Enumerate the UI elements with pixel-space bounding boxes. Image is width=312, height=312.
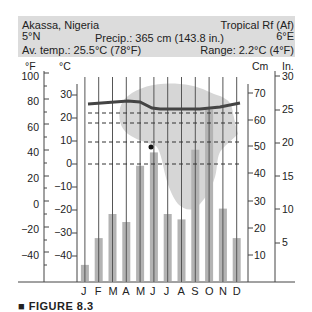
month-label: D: [233, 286, 241, 297]
figure-caption: ■ FIGURE 8.3: [18, 300, 94, 312]
month-label: O: [205, 286, 214, 297]
month-label: N: [219, 286, 227, 297]
month-label: J: [81, 286, 87, 297]
month-label: M: [136, 286, 145, 297]
month-label: J: [150, 286, 156, 297]
month-label: A: [178, 286, 185, 297]
station-dot: [149, 145, 154, 150]
month-label: J: [164, 286, 170, 297]
month-label: M: [109, 286, 118, 297]
month-label: F: [95, 286, 102, 297]
month-label: S: [191, 286, 198, 297]
month-label: A: [122, 286, 129, 297]
